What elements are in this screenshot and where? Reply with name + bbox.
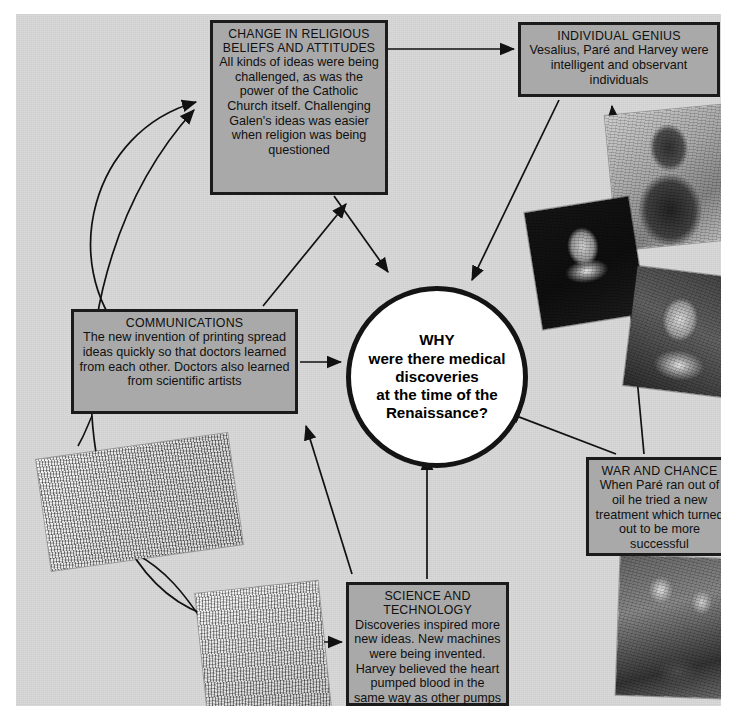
arrow-war-to-centre: [506, 412, 616, 454]
arrow-science-to-communications: [306, 426, 352, 574]
node-body-science: Discoveries inspired more new ideas. New…: [354, 618, 501, 706]
image-harvey-portrait: [623, 266, 721, 398]
node-science-and-technology[interactable]: SCIENCE AND TECHNOLOGY Discoveries inspi…: [346, 582, 509, 706]
line-printing-to-communications: [78, 416, 92, 446]
node-title-communications: COMMUNICATIONS: [79, 316, 290, 330]
node-body-religion: All kinds of ideas were being challenged…: [218, 55, 380, 157]
node-title-genius: INDIVIDUAL GENIUS: [526, 29, 712, 43]
central-question-circle[interactable]: WHYwere there medicaldiscoveriesat the t…: [346, 286, 528, 468]
image-battlefield-surgery: [616, 555, 721, 699]
node-title-war: WAR AND CHANCE: [594, 464, 721, 478]
arrow-curve-communications-to-religion: [91, 102, 196, 336]
node-title-religion: CHANGE IN RELIGIOUS BELIEFS AND ATTITUDE…: [218, 27, 380, 55]
image-pare-portrait: [524, 197, 646, 330]
arrow-communications-to-religion: [263, 204, 346, 306]
node-body-war: When Paré ran out of oil he tried a new …: [594, 478, 721, 551]
node-individual-genius[interactable]: INDIVIDUAL GENIUS Vesalius, Paré and Har…: [518, 22, 720, 97]
node-communications[interactable]: COMMUNICATIONS The new invention of prin…: [71, 309, 298, 414]
node-war-and-chance[interactable]: WAR AND CHANCE When Paré ran out of oil …: [586, 457, 721, 556]
arrow-religion-to-centre: [334, 196, 388, 272]
central-question-text: WHYwere there medicaldiscoveriesat the t…: [363, 331, 512, 422]
diagram-canvas: CHANGE IN RELIGIOUS BELIEFS AND ATTITUDE…: [0, 0, 735, 722]
image-water-machine: [195, 581, 331, 706]
node-change-in-religious-beliefs[interactable]: CHANGE IN RELIGIOUS BELIEFS AND ATTITUDE…: [210, 20, 388, 195]
node-body-genius: Vesalius, Paré and Harvey were intellige…: [526, 43, 712, 87]
node-title-science: SCIENCE AND TECHNOLOGY: [354, 589, 501, 618]
node-body-communications: The new invention of printing spread ide…: [79, 330, 290, 388]
diagram-stage: CHANGE IN RELIGIOUS BELIEFS AND ATTITUDE…: [16, 14, 721, 706]
